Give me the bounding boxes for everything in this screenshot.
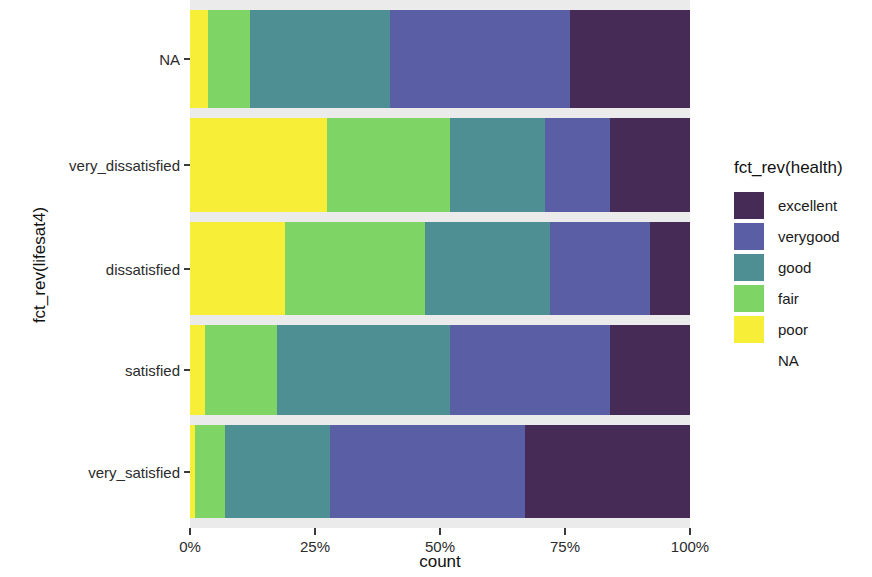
legend-key-good: [734, 254, 764, 281]
bar-segment-verygood: [545, 118, 610, 212]
legend-label-fair: fair: [778, 290, 799, 307]
legend-key-verygood: [734, 223, 764, 250]
legend-label-excellent: excellent: [778, 197, 837, 214]
legend-key-excellent: [734, 192, 764, 219]
bar-segment-good: [450, 118, 545, 212]
y-tick-label-satisfied: satisfied: [125, 362, 180, 379]
legend-item-good[interactable]: good: [734, 252, 872, 283]
y-tick-mark-NA: [184, 58, 190, 60]
bar-very_satisfied: [190, 425, 690, 518]
x-tick-mark-3: [564, 528, 566, 535]
y-tick-mark-very_satisfied: [184, 471, 190, 473]
bar-segment-good: [277, 325, 450, 415]
bar-segment-good: [225, 425, 330, 518]
legend-key-fair: [734, 285, 764, 312]
y-tick-mark-dissatisfied: [184, 268, 190, 270]
legend-label-good: good: [778, 259, 811, 276]
bar-segment-excellent: [610, 325, 690, 415]
bar-segment-fair: [205, 325, 277, 415]
x-tick-mark-2: [439, 528, 441, 535]
legend-label-verygood: verygood: [778, 228, 840, 245]
bar-segment-verygood: [550, 222, 650, 315]
bar-segment-excellent: [650, 222, 690, 315]
bar-segment-poor: [190, 222, 285, 315]
legend-item-verygood[interactable]: verygood: [734, 221, 872, 252]
bar-segment-good: [250, 10, 390, 108]
bar-segment-excellent: [610, 118, 690, 212]
bar-segment-fair: [285, 222, 425, 315]
bar-segment-excellent: [525, 425, 690, 518]
bar-segment-poor: [190, 325, 205, 415]
bar-segment-fair: [327, 118, 450, 212]
legend-item-poor[interactable]: poor: [734, 314, 872, 345]
legend-key-NA: [734, 347, 764, 374]
y-tick-label-NA: NA: [159, 51, 180, 68]
legend-label-NA: NA: [778, 352, 799, 369]
bar-segment-verygood: [450, 325, 610, 415]
bar-very_dissatisfied: [190, 118, 690, 212]
bar-NA: [190, 10, 690, 108]
plot-panel: [190, 0, 690, 528]
legend-items: excellentverygoodgoodfairpoorNA: [734, 190, 872, 376]
bar-satisfied: [190, 325, 690, 415]
x-tick-mark-1: [314, 528, 316, 535]
bar-segment-verygood: [330, 425, 525, 518]
legend: fct_rev(health) excellentverygoodgoodfai…: [734, 158, 872, 376]
x-axis-title: count: [190, 552, 690, 572]
bar-segment-excellent: [570, 10, 690, 108]
bar-segment-verygood: [390, 10, 570, 108]
legend-item-fair[interactable]: fair: [734, 283, 872, 314]
legend-title: fct_rev(health): [734, 158, 872, 178]
x-tick-mark-4: [689, 528, 691, 535]
y-tick-mark-satisfied: [184, 369, 190, 371]
bar-segment-good: [425, 222, 550, 315]
bar-segment-fair: [195, 425, 225, 518]
bar-segment-poor: [190, 118, 327, 212]
bar-dissatisfied: [190, 222, 690, 315]
y-tick-label-dissatisfied: dissatisfied: [106, 260, 180, 277]
legend-label-poor: poor: [778, 321, 808, 338]
x-tick-mark-0: [189, 528, 191, 535]
legend-item-excellent[interactable]: excellent: [734, 190, 872, 221]
y-axis-title: fct_rev(lifesat4): [30, 115, 50, 415]
y-tick-label-very_dissatisfied: very_dissatisfied: [69, 157, 180, 174]
legend-key-poor: [734, 316, 764, 343]
y-tick-label-very_satisfied: very_satisfied: [88, 463, 180, 480]
legend-item-NA[interactable]: NA: [734, 345, 872, 376]
y-tick-mark-very_dissatisfied: [184, 164, 190, 166]
bar-segment-poor: [190, 10, 208, 108]
bar-segment-fair: [208, 10, 250, 108]
stacked-bar-chart: fct_rev(lifesat4) NAvery_dissatisfieddis…: [0, 0, 872, 577]
